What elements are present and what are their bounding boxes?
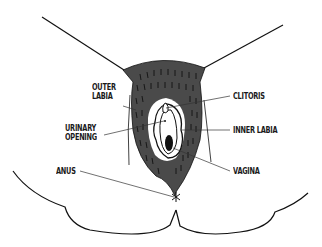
- inner-labia-line1: INNER LABIA: [233, 126, 277, 135]
- vagina-line1: VAGINA: [233, 167, 260, 176]
- vagina-opening: [165, 135, 173, 151]
- label-outer-labia: OUTER LABIA: [92, 83, 116, 101]
- outer-labia-line2: LABIA: [92, 92, 116, 101]
- anatomy-diagram: OUTER LABIA URINARY OPENING ANUS CLITORI…: [0, 0, 322, 247]
- clitoris-line1: CLITORIS: [233, 92, 265, 101]
- anus-line1: ANUS: [56, 167, 76, 176]
- outer-labia-line1: OUTER: [92, 83, 116, 92]
- right-buttock-curve: [176, 193, 308, 234]
- urinary-opening-line2: OPENING: [65, 133, 97, 142]
- label-anus: ANUS: [56, 167, 76, 176]
- label-urinary-opening: URINARY OPENING: [65, 124, 97, 142]
- label-clitoris: CLITORIS: [233, 92, 265, 101]
- label-inner-labia: INNER LABIA: [233, 126, 277, 135]
- diagram-illustration: [0, 0, 322, 247]
- urinary-opening-line1: URINARY: [65, 124, 97, 133]
- right-thigh-line: [204, 25, 283, 68]
- left-buttock-curve: [13, 171, 176, 234]
- label-vagina: VAGINA: [233, 167, 260, 176]
- right-side-stroke: [204, 100, 211, 162]
- urinary-opening-dot: [164, 120, 166, 122]
- left-thigh-line: [42, 17, 124, 70]
- left-side-stroke: [128, 95, 130, 165]
